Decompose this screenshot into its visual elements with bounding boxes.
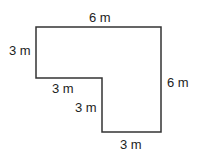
label-inner-vertical: 3 m [75,101,97,114]
label-inner-horizontal: 3 m [52,82,74,95]
label-left: 3 m [9,44,31,57]
l-shape-outline [36,27,161,132]
label-right: 6 m [167,76,189,89]
label-top: 6 m [89,11,111,24]
label-bottom: 3 m [120,138,142,151]
